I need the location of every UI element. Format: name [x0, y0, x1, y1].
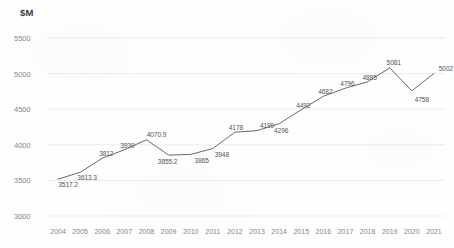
data-point-label: 4682 — [318, 88, 332, 95]
data-point-label: 4492 — [296, 102, 310, 109]
line-chart: $M 300035004000450050005500 200420052006… — [0, 0, 454, 248]
data-point-label: 3948 — [215, 151, 229, 158]
data-point-label: 3855.2 — [158, 158, 178, 165]
x-axis-tick-label: 2020 — [404, 228, 420, 235]
gridlines-group — [47, 38, 445, 216]
x-axis-tick-label: 2021 — [426, 228, 442, 235]
x-axis-tick-label: 2010 — [183, 228, 199, 235]
data-point-label: 5081 — [387, 59, 401, 66]
x-axis-tick-label: 2007 — [117, 228, 133, 235]
x-axis-tick-label: 2011 — [205, 228, 220, 235]
data-point-label: 3517.2 — [58, 181, 78, 188]
data-point-label: 3930 — [120, 142, 134, 149]
x-axis-tick-label: 2016 — [316, 228, 332, 235]
y-axis-tick-label: 4000 — [14, 140, 44, 149]
data-point-label: 4070.9 — [147, 131, 167, 138]
x-axis-tick-label: 2017 — [338, 228, 354, 235]
plot-area — [0, 0, 454, 248]
data-point-label: 4296 — [274, 127, 288, 134]
data-point-label: 4885 — [362, 74, 376, 81]
y-axis-tick-label: 4500 — [14, 105, 44, 114]
y-axis-tick-label: 3000 — [14, 212, 44, 221]
data-point-label: 4758 — [415, 96, 429, 103]
x-axis-tick-label: 2018 — [360, 228, 376, 235]
data-point-label: 3865 — [195, 157, 209, 164]
x-axis-tick-label: 2009 — [161, 228, 177, 235]
x-axis-tick-label: 2005 — [72, 228, 88, 235]
series-line-revenue — [58, 68, 434, 179]
data-point-label: 4178 — [229, 124, 243, 131]
data-point-label: 4199 — [260, 122, 274, 129]
x-axis-tick-label: 2013 — [249, 228, 265, 235]
data-point-label: 3613.3 — [77, 174, 97, 181]
x-axis-tick-label: 2019 — [382, 228, 398, 235]
data-point-label: 5002 — [439, 65, 453, 72]
x-axis-tick-label: 2008 — [139, 228, 155, 235]
x-axis-tick-label: 2014 — [271, 228, 287, 235]
y-axis-tick-label: 5000 — [14, 69, 44, 78]
x-axis-tick-label: 2015 — [293, 228, 309, 235]
x-axis-tick-label: 2006 — [94, 228, 110, 235]
y-axis-tick-label: 5500 — [14, 34, 44, 43]
y-axis-tick-label: 3500 — [14, 176, 44, 185]
x-axis-tick-label: 2004 — [50, 228, 66, 235]
x-axis-tick-label: 2012 — [227, 228, 243, 235]
data-point-label: 3812 — [99, 150, 113, 157]
data-point-label: 4796 — [340, 80, 354, 87]
